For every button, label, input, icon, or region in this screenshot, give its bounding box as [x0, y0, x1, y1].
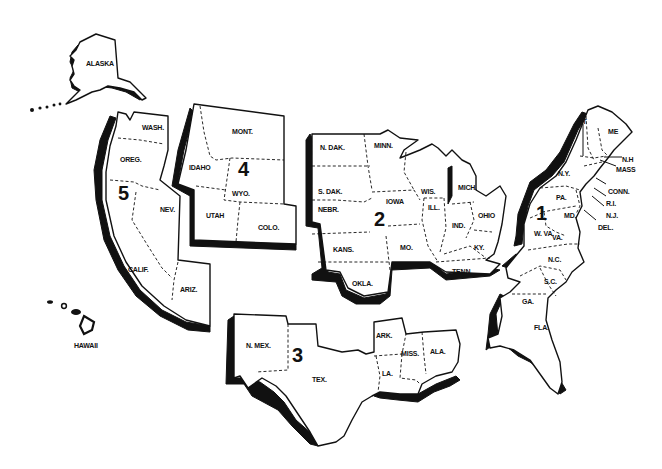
state-label-nj: N.J. — [606, 212, 618, 219]
state-label-wash: WASH. — [142, 124, 164, 131]
state-label-calif: CALIF. — [128, 266, 149, 273]
state-label-nev: NEV. — [160, 206, 175, 213]
us-regions-map: ALASKA WASH. OREG. 5 NEV. CALIF. ARIZ. H… — [0, 0, 662, 469]
state-label-nc: N.C. — [548, 256, 561, 263]
state-label-miss: MISS. — [401, 350, 419, 357]
state-label-n-mex: N. MEX. — [246, 342, 271, 349]
hawaii-group: HAWAII — [47, 300, 98, 349]
state-label-la: LA. — [382, 370, 393, 377]
region-1: VT ME N.H MASS N.Y. CONN. R.I. PA. N.J. … — [486, 106, 636, 394]
state-label-mo: MO. — [400, 244, 413, 251]
state-label-okla: OKLA. — [352, 280, 373, 287]
state-label-me: ME — [608, 128, 619, 135]
state-label-ga: GA. — [522, 298, 534, 305]
state-label-hawaii: HAWAII — [74, 342, 98, 349]
state-label-tenn: TENN. — [452, 268, 472, 275]
region-4-shape — [178, 104, 296, 244]
region-number-4: 4 — [238, 158, 250, 180]
region-number-2: 2 — [374, 208, 385, 230]
region-3-shape — [234, 314, 460, 446]
state-label-kans: KANS. — [333, 246, 354, 253]
state-label-mont: MONT. — [232, 128, 253, 135]
state-label-alaska: ALASKA — [86, 60, 114, 67]
state-label-ala: ALA. — [430, 348, 446, 355]
state-label-ark: ARK. — [376, 332, 393, 339]
region-2: N. DAK. MINN. S. DAK. WIS. MICH. IOWA NE… — [306, 130, 506, 304]
state-label-idaho: IDAHO — [189, 164, 211, 171]
state-label-colo: COLO. — [258, 224, 279, 231]
state-label-s-dak: S. DAK. — [318, 188, 343, 195]
state-label-mass: MASS — [616, 166, 636, 173]
state-label-iowa: IOWA — [386, 198, 404, 205]
state-label-utah: UTAH — [206, 212, 224, 219]
state-label-wis: WIS. — [421, 188, 436, 195]
state-label-tex: TEX. — [312, 376, 327, 383]
state-label-va: VA. — [552, 234, 563, 241]
state-label-nebr: NEBR. — [318, 206, 339, 213]
region-3: N. MEX. 3 TEX. ARK. MISS. ALA. LA. — [226, 314, 460, 446]
state-label-nh: N.H — [622, 156, 634, 163]
state-label-n-dak: N. DAK. — [320, 144, 345, 151]
state-label-oreg: OREG. — [120, 156, 142, 163]
state-label-mich: MICH. — [458, 184, 477, 191]
state-label-vt: VT — [578, 118, 587, 125]
region-2-shape — [312, 130, 506, 296]
state-label-wyo: WYO. — [232, 190, 250, 197]
region-number-5: 5 — [118, 182, 129, 204]
state-label-ky: KY. — [474, 244, 485, 251]
region-number-3: 3 — [292, 344, 303, 366]
state-label-del: DEL. — [598, 224, 613, 231]
state-label-ny: N.Y. — [558, 170, 570, 177]
state-label-sc: S.C. — [544, 278, 557, 285]
state-label-minn: MINN. — [374, 142, 393, 149]
state-label-ind: IND. — [452, 222, 465, 229]
state-label-md: MD. — [564, 212, 576, 219]
alaska-group: ALASKA — [30, 34, 146, 112]
region-number-1: 1 — [536, 202, 547, 224]
state-label-fla: FLA. — [534, 324, 549, 331]
region-1-shape — [488, 106, 632, 394]
state-label-ohio: OHIO — [478, 212, 496, 219]
state-label-ri: R.I. — [606, 200, 616, 207]
state-label-ill: ILL. — [428, 204, 440, 211]
region-4: MONT. IDAHO 4 WYO. UTAH COLO. — [172, 104, 296, 250]
state-label-pa: PA. — [556, 194, 567, 201]
state-label-ariz: ARIZ. — [180, 286, 198, 293]
state-label-conn: CONN. — [608, 188, 630, 195]
